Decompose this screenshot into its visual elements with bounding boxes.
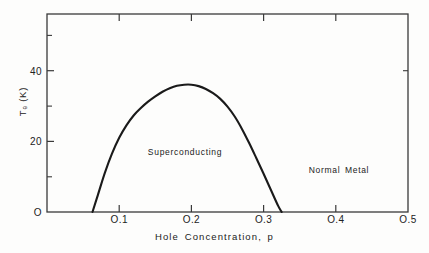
top-axis-ticks — [119, 14, 336, 21]
annotation-normal-metal: Normal Metal — [309, 165, 369, 175]
figure-superconducting-phase-diagram: O.1 O.2 O.3 O.4 O.5 O 20 40 Hole Concent… — [0, 0, 429, 253]
y-axis-minor-ticks — [47, 35, 52, 176]
annotation-superconducting: Superconducting — [148, 147, 222, 157]
y-tick-label-20: 20 — [24, 136, 42, 147]
x-axis-title: Hole Concentration, p — [0, 231, 429, 242]
y-axis-title: Tₑ (K) — [17, 72, 28, 132]
x-tick-label-0-1: O.1 — [111, 214, 128, 225]
plot-canvas — [0, 0, 429, 253]
x-tick-label-0-4: O.4 — [327, 214, 344, 225]
x-axis-ticks — [119, 205, 336, 212]
x-tick-label-0-2: O.2 — [183, 214, 200, 225]
y-tick-label-0: O — [24, 207, 42, 218]
x-tick-label-0-3: O.3 — [255, 214, 272, 225]
x-tick-label-0-5: O.5 — [399, 214, 416, 225]
